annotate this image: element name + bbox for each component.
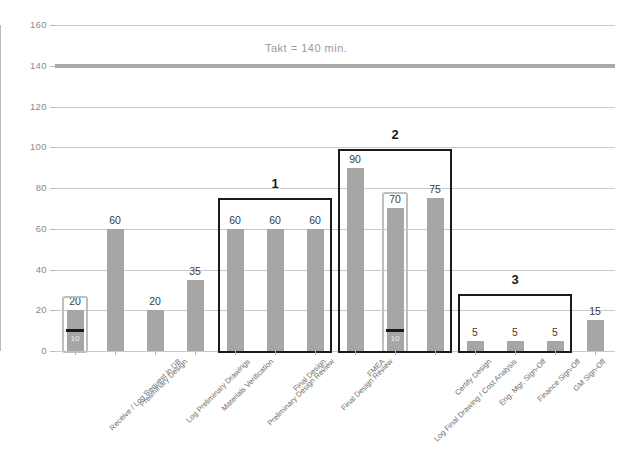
x-axis-tick-label: Log Final Drawing / Cost Analysis xyxy=(432,357,518,443)
x-axis-tick-label: Preliminary Design xyxy=(138,357,189,408)
value-add-marker-label: 10 xyxy=(62,334,88,343)
y-axis-line xyxy=(0,25,1,351)
bar xyxy=(147,310,164,351)
x-axis-tick-label: FMEA xyxy=(365,357,386,378)
y-axis-tick-label: 0 xyxy=(41,345,47,356)
y-axis-tick-label: 100 xyxy=(30,141,47,152)
takt-reference-line xyxy=(55,64,615,68)
bar xyxy=(587,320,604,351)
annotation-group-label: 2 xyxy=(338,127,452,142)
annotation-group-label: 3 xyxy=(458,272,572,287)
x-axis-tick-label: Finance Sign-Off xyxy=(536,357,583,404)
x-axis-tick-label: Final Design xyxy=(291,357,327,393)
annotation-group-box xyxy=(338,149,452,353)
x-axis-tick-label: Materials Verification xyxy=(220,357,276,413)
gridline xyxy=(55,147,615,148)
bar-value-label: 20 xyxy=(133,295,177,307)
gridline xyxy=(55,25,615,26)
x-axis-tick-label: Log Preliminary Drawings xyxy=(184,357,252,425)
x-axis-tick-label: Eng. Mgr. Sign-Off xyxy=(497,357,547,407)
y-axis-tick-label: 20 xyxy=(36,304,47,315)
gridline xyxy=(55,107,615,108)
bar-value-label: 35 xyxy=(173,265,217,277)
annotation-group-box xyxy=(458,294,572,353)
y-axis-tick-label: 40 xyxy=(36,264,47,275)
y-axis-tick-label: 60 xyxy=(36,223,47,234)
y-axis-tick-label: 120 xyxy=(30,101,47,112)
y-axis-tick-label: 140 xyxy=(30,60,47,71)
bar xyxy=(107,229,124,351)
bar-value-label: 15 xyxy=(573,305,617,317)
bar xyxy=(187,280,204,351)
x-axis-tick-label: GM Sign-Off xyxy=(571,357,607,393)
value-add-marker-band xyxy=(66,329,84,333)
bar-value-label: 60 xyxy=(93,214,137,226)
x-axis-tick-label: Preliminary Design Review xyxy=(266,357,337,428)
gridline xyxy=(55,188,615,189)
y-axis-tick-label: 160 xyxy=(30,19,47,30)
takt-reference-label: Takt = 140 min. xyxy=(265,42,347,54)
annotation-group-label: 1 xyxy=(218,176,332,191)
x-axis-tick-label: Certify Design xyxy=(453,357,493,397)
annotation-group-box xyxy=(218,198,332,353)
x-axis-tick-label: Final Design Review xyxy=(339,357,394,412)
value-add-marker-box xyxy=(62,296,88,353)
y-axis-tick-label: 80 xyxy=(36,182,47,193)
gridline xyxy=(55,229,615,230)
bar-chart: 020406080100120140160 206020356060609070… xyxy=(0,0,621,468)
plot-area: 2060203560606090707555515 Takt = 140 min… xyxy=(55,25,615,351)
gridline xyxy=(55,270,615,271)
x-axis-tick-label: Receive / Log Request in DB xyxy=(108,357,183,432)
